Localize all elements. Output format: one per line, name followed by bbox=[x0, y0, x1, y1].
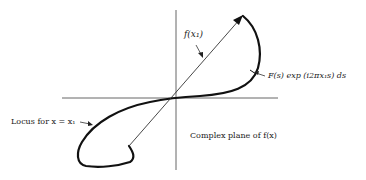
phasor-label: f(x₁) bbox=[184, 30, 203, 39]
locus-pointer-arrow-icon bbox=[88, 121, 93, 126]
increment-label: F(s) exp (i2πx₁s) ds bbox=[268, 72, 346, 80]
locus-label: Locus for x = x₁ bbox=[11, 118, 76, 126]
complex-plane-diagram: f(x₁) F(s) exp (i2πx₁s) ds Locus for x =… bbox=[0, 0, 366, 180]
plane-label: Complex plane of f(x) bbox=[190, 132, 277, 140]
locus-curve bbox=[78, 16, 260, 167]
phasor-pointer-arrow-icon bbox=[198, 52, 203, 58]
diagram-graphics bbox=[0, 0, 366, 180]
phasor-arrowhead-icon bbox=[233, 15, 243, 25]
